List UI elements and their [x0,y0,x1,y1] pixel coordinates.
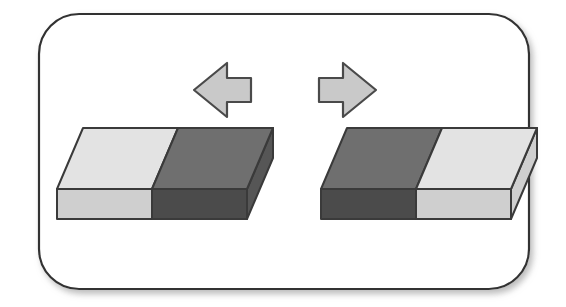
blocks-and-arrows-illustration [0,0,566,307]
right-block-front-face-left-half [321,189,416,219]
left-block [57,128,273,219]
figure-canvas [0,0,566,307]
left-block-front-face-left-half [57,189,152,219]
right-block [321,128,537,219]
left-block-front-face-right-half [152,189,247,219]
right-block-front-face-right-half [416,189,511,219]
